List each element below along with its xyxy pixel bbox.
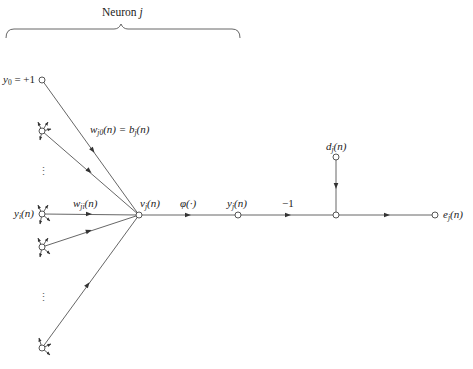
neuron-brace [6,24,240,38]
node-input-1 [39,128,45,134]
label-wji: wji(n) [73,198,97,211]
node-vj [136,212,142,218]
y0-rest: = +1 [12,73,35,85]
label-minus-one: −1 [282,198,294,209]
signal-flow-diagram: Neuron j y0 = +1 wj0(n) = bj(n) ⋮ ⋮ yi(n… [0,0,473,369]
node-ej [432,212,438,218]
node-y0 [39,77,45,83]
diagram-graphics [0,0,473,369]
neuron-title: Neuron j [102,7,143,19]
wji-arg: (n) [85,197,98,209]
fanout-arrows [38,122,51,355]
title-index: j [139,6,142,18]
label-yj: yj(n) [227,198,247,211]
node-yi [39,211,45,217]
label-vj: vj(n) [140,198,160,211]
ellipsis-upper: ⋮ [38,166,49,177]
label-bias-weight: wj0(n) = bj(n) [90,124,149,137]
label-phi: φ(·) [180,198,196,209]
bias-b-arg: (n) [137,123,150,135]
dj-arg: (n) [334,140,347,152]
node-input-3 [39,244,45,250]
label-dj: dj(n) [326,141,346,154]
node-input-m [39,345,45,351]
vj-arg: (n) [147,197,160,209]
label-yi: yi(n) [14,208,34,221]
yi-arg: (n) [21,207,34,219]
label-y0: y0 = +1 [3,74,35,87]
label-ej: ej(n) [443,209,463,222]
node-yj [235,212,241,218]
node-sum [333,212,339,218]
ej-arg: (n) [450,208,463,220]
title-word: Neuron [102,6,137,18]
node-dj [333,154,339,160]
ellipsis-lower: ⋮ [38,292,49,303]
bias-w-arg: (n) = [103,123,129,135]
yj-arg: (n) [234,197,247,209]
